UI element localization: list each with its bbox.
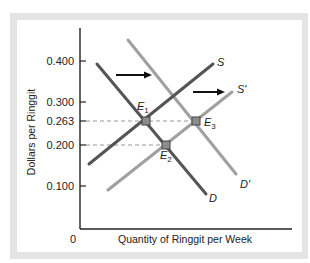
curve-label-d: D bbox=[209, 192, 217, 204]
curve-label-d-prime: D' bbox=[240, 178, 251, 190]
y-axis-title: Dollars per Ringgit bbox=[25, 89, 37, 175]
curve-label-s-prime: S' bbox=[237, 83, 247, 95]
equilibrium-point-e1 bbox=[142, 117, 150, 125]
y-ticks bbox=[80, 61, 86, 186]
origin-label: 0 bbox=[70, 233, 76, 245]
equilibrium-point-e2 bbox=[162, 141, 170, 149]
y-tick-label: 0.300 bbox=[46, 96, 74, 108]
equilibrium-label-e3: E3 bbox=[204, 116, 216, 131]
x-axis-title: Quantity of Ringgit per Week bbox=[118, 233, 253, 245]
y-tick-label: 0.263 bbox=[46, 115, 74, 127]
equilibrium-point-e3 bbox=[192, 117, 200, 125]
supply-shift-arrow bbox=[193, 89, 225, 96]
curve-label-s: S bbox=[217, 56, 225, 68]
y-tick-label: 0.100 bbox=[46, 180, 74, 192]
supply-curve-s bbox=[89, 64, 213, 164]
y-tick-label: 0.200 bbox=[46, 139, 74, 151]
demand-shift-arrow bbox=[116, 72, 152, 79]
y-tick-label: 0.400 bbox=[46, 55, 74, 67]
chart-svg: 0.400 0.300 0.263 0.200 0.100 0 Quantity… bbox=[0, 0, 310, 263]
